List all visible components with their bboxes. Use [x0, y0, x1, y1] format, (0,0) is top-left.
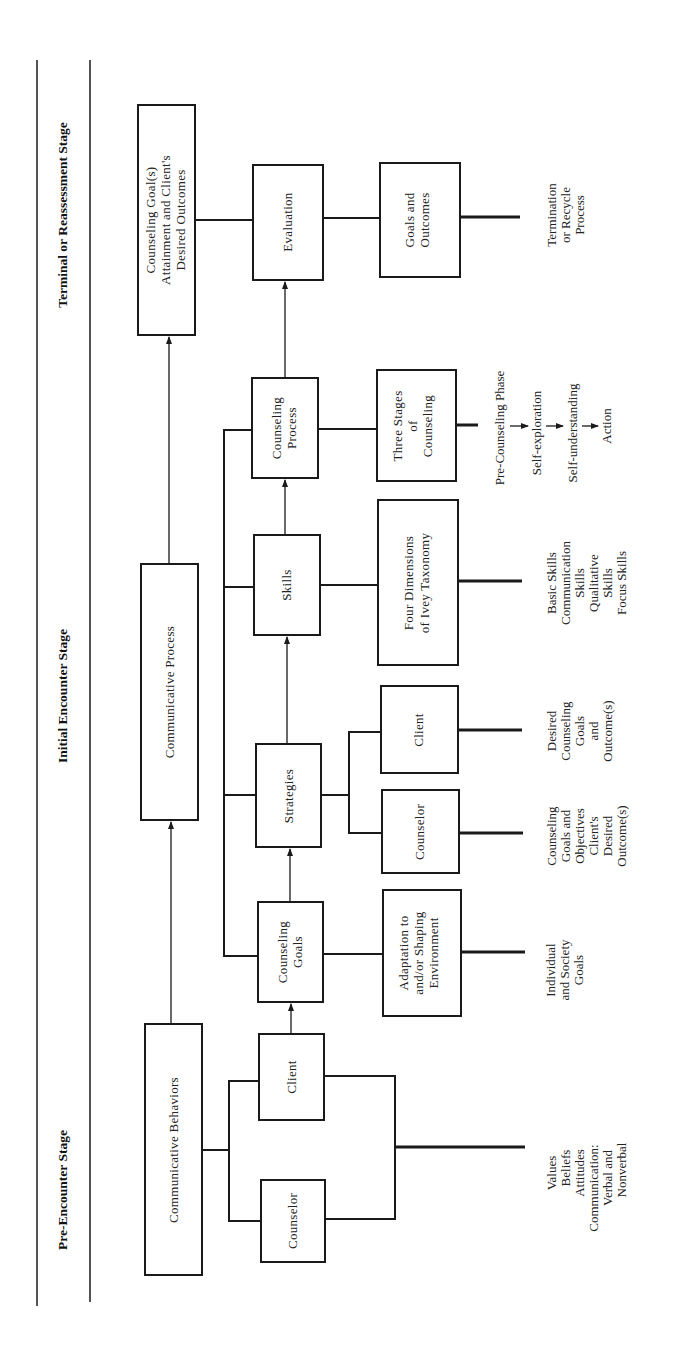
bracket-strategies: [349, 732, 382, 833]
box-evaluation: Evaluation: [253, 165, 323, 280]
output-strategies-client: DesiredCounselingGoalsandOutcome(s): [544, 700, 615, 761]
svg-text:Terminationor RecycleProcess: Terminationor RecycleProcess: [544, 183, 587, 247]
svg-text:Evaluation: Evaluation: [280, 192, 295, 252]
stage-label-terminal: Terminal or Reassessment Stage: [55, 122, 70, 308]
box-skills: Skills: [254, 535, 320, 635]
svg-text:Client: Client: [411, 713, 426, 747]
svg-text:Adaptation toand/or ShapingEnv: Adaptation toand/or ShapingEnvironment: [396, 911, 441, 994]
svg-text:Communicative Process: Communicative Process: [162, 626, 177, 758]
svg-text:ValuesBeliefsAttitudesCommunic: ValuesBeliefsAttitudesCommunication:Verb…: [544, 1142, 629, 1232]
output-goals: Individualand SocietyGoals: [543, 939, 586, 1001]
svg-text:Self-understanding: Self-understanding: [565, 383, 580, 482]
output-stages-sequence: Pre-Counseling Phase Self-exploration Se…: [492, 371, 614, 486]
svg-text:Counselor: Counselor: [285, 1193, 300, 1250]
box-goal-attainment: Counseling Goal(s)Attainment and Client'…: [138, 105, 195, 335]
svg-text:Client: Client: [284, 1060, 299, 1094]
bracket-pre-right: [324, 1076, 395, 1219]
svg-text:Action: Action: [599, 408, 614, 444]
svg-text:Counseling Goal(s)Attainment a: Counseling Goal(s)Attainment and Client'…: [143, 155, 188, 285]
svg-text:Basic SkillsCommunicationSkill: Basic SkillsCommunicationSkillsQualitati…: [544, 541, 629, 625]
output-strategies-counselor: CounselingGoals andObjectivesClient'sDes…: [544, 805, 629, 866]
box-goals-outcomes: Goals andOutcomes: [380, 163, 460, 277]
svg-text:Goals andOutcomes: Goals andOutcomes: [402, 192, 432, 247]
bus-vertical: [224, 430, 258, 956]
output-pre-encounter: ValuesBeliefsAttitudesCommunication:Verb…: [544, 1142, 629, 1232]
box-communicative-process: Communicative Process: [141, 564, 198, 820]
counseling-model-diagram: Pre-Encounter Stage Initial Encounter St…: [0, 0, 676, 1368]
output-skills: Basic SkillsCommunicationSkillsQualitati…: [544, 541, 629, 625]
svg-text:Four Dimensionsof Ivey Taxonom: Four Dimensionsof Ivey Taxonomy: [401, 533, 432, 634]
box-communicative-behaviors: Communicative Behaviors: [145, 1024, 202, 1275]
box-three-stages: Three StagesofCounseling: [377, 370, 456, 481]
box-pre-counselor: Counselor: [261, 1180, 325, 1262]
box-four-dimensions: Four Dimensionsof Ivey Taxonomy: [378, 500, 458, 665]
stage-label-initial-encounter: Initial Encounter Stage: [55, 629, 70, 763]
svg-text:Skills: Skills: [279, 569, 294, 600]
stage-label-pre-encounter: Pre-Encounter Stage: [55, 1130, 70, 1250]
box-counseling-process: CounselingProcess: [252, 378, 318, 478]
svg-text:Self-exploration: Self-exploration: [529, 390, 544, 475]
svg-text:Communicative Behaviors: Communicative Behaviors: [166, 1077, 181, 1223]
bracket-pre-left: [229, 1081, 261, 1221]
svg-text:Pre-Counseling Phase: Pre-Counseling Phase: [492, 371, 507, 486]
box-strategies: Strategies: [256, 744, 321, 847]
svg-text:Individualand SocietyGoals: Individualand SocietyGoals: [543, 939, 586, 1001]
box-adaptation: Adaptation toand/or ShapingEnvironment: [383, 890, 461, 1016]
svg-text:CounselingGoals andObjectivesC: CounselingGoals andObjectivesClient'sDes…: [544, 805, 629, 866]
box-counseling-goals: CounselingGoals: [258, 902, 323, 1002]
box-strategies-client: Client: [381, 686, 458, 773]
svg-text:Counselor: Counselor: [412, 804, 427, 861]
box-strategies-counselor: Counselor: [382, 790, 459, 873]
svg-text:Strategies: Strategies: [281, 769, 296, 823]
svg-text:DesiredCounselingGoalsandOutco: DesiredCounselingGoalsandOutcome(s): [544, 700, 615, 761]
output-terminal: Terminationor RecycleProcess: [544, 183, 587, 247]
box-pre-client: Client: [259, 1034, 324, 1120]
